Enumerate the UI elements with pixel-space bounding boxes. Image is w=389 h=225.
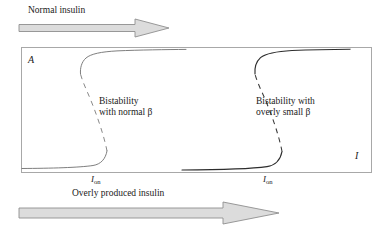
x-axis-label: I bbox=[355, 150, 358, 162]
x-tick-label-ion-left: Ion bbox=[91, 174, 101, 184]
bistability-diagram: Normal insulin A I Bistabilit bbox=[0, 0, 389, 225]
region-label-line1: Bistability with bbox=[256, 96, 315, 107]
y-axis-label: A bbox=[28, 54, 34, 66]
normal-insulin-arrow-label: Normal insulin bbox=[28, 6, 85, 16]
x-tick-label-ion-right: Ion bbox=[263, 174, 273, 184]
region-label-normal-beta: Bistability with normal β bbox=[99, 96, 152, 118]
left-curve-upper-stable-branch bbox=[80, 49, 186, 74]
right-block-arrow-icon bbox=[18, 201, 280, 225]
region-label-line2: overly small β bbox=[256, 107, 315, 118]
plot-frame bbox=[22, 48, 372, 173]
right-curve-lower-stable-branch bbox=[182, 152, 282, 171]
region-label-line1: Bistability bbox=[99, 96, 152, 107]
overly-produced-insulin-arrow-label: Overly produced insulin bbox=[72, 189, 164, 199]
overly-produced-insulin-arrow-band: Overly produced insulin bbox=[0, 188, 389, 225]
region-label-line2: with normal β bbox=[99, 107, 152, 118]
plot-area bbox=[21, 47, 372, 173]
normal-insulin-arrow-band: Normal insulin bbox=[0, 2, 389, 40]
right-curve-upper-stable-branch bbox=[255, 49, 350, 74]
tick-subscript: on bbox=[266, 178, 273, 185]
right-block-arrow-icon bbox=[18, 18, 170, 38]
tick-subscript: on bbox=[94, 178, 101, 185]
region-label-small-beta: Bistability with overly small β bbox=[256, 96, 315, 118]
left-curve-lower-stable-branch bbox=[22, 151, 107, 169]
